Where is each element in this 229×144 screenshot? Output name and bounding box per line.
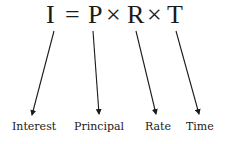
label-interest: Interest [12,120,56,134]
label-principal: Principal [74,120,124,134]
arrow-interest [32,31,54,115]
arrow-time [176,31,199,114]
arrow-rate [136,31,156,114]
arrow-principal [93,31,99,114]
label-rate: Rate [145,120,171,134]
label-time: Time [186,120,214,134]
